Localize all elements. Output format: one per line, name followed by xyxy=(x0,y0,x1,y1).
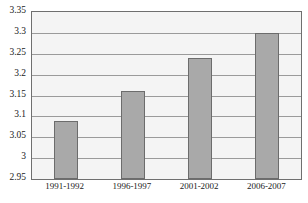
bar xyxy=(188,58,212,179)
y-tick-label: 3.3 xyxy=(14,27,26,37)
bar-chart: 3.353.33.253.23.153.13.0532.95 1991-1992… xyxy=(0,0,308,203)
y-tick-label: 3 xyxy=(21,152,26,162)
y-axis: 3.353.33.253.23.153.13.0532.95 xyxy=(0,11,29,180)
y-tick-label: 3.05 xyxy=(9,132,26,142)
y-tick-label: 3.25 xyxy=(9,48,26,58)
x-tick-label: 1996-1997 xyxy=(112,182,151,191)
y-tick-label: 3.15 xyxy=(9,90,26,100)
bar xyxy=(54,121,78,179)
clipped-title-remnant xyxy=(0,0,308,2)
x-axis: 1991-19921996-19972001-20022006-2007 xyxy=(31,182,302,198)
y-tick-label: 2.95 xyxy=(9,173,26,183)
x-tick-label: 2001-2002 xyxy=(180,182,219,191)
bar xyxy=(121,91,145,179)
plot-area xyxy=(31,11,302,180)
x-tick-label: 2006-2007 xyxy=(247,182,286,191)
bar xyxy=(255,33,279,179)
x-tick-label: 1991-1992 xyxy=(45,182,84,191)
y-tick-label: 3.35 xyxy=(9,6,26,16)
y-tick-label: 3.1 xyxy=(14,111,26,121)
y-tick-label: 3.2 xyxy=(14,69,26,79)
